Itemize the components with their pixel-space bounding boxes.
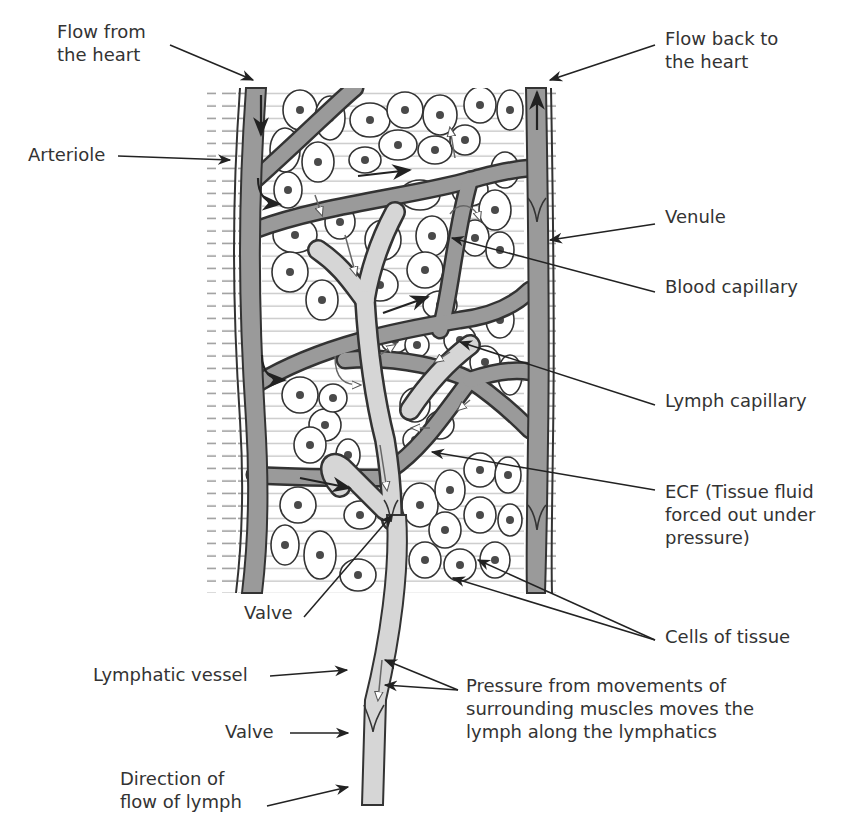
label-ecf: ECF (Tissue fluid forced out under press… xyxy=(665,480,815,549)
label-lymphatic-vessel: Lymphatic vessel xyxy=(93,663,248,686)
label-valve-upper: Valve xyxy=(244,601,293,624)
label-venule: Venule xyxy=(665,205,726,228)
label-lymph-capillary: Lymph capillary xyxy=(665,389,807,412)
label-pressure-note: Pressure from movements of surrounding m… xyxy=(466,674,754,743)
label-blood-capillary: Blood capillary xyxy=(665,275,798,298)
label-valve-lower: Valve xyxy=(225,720,274,743)
label-cells-of-tissue: Cells of tissue xyxy=(665,625,790,648)
label-flow-from-heart: Flow from the heart xyxy=(57,20,146,66)
lymph-formation-diagram: Flow from the heart Flow back to the hea… xyxy=(0,0,851,835)
label-flow-back-to-heart: Flow back to the heart xyxy=(665,27,778,73)
label-arteriole: Arteriole xyxy=(28,143,105,166)
label-direction-of-flow: Direction of flow of lymph xyxy=(120,767,242,813)
